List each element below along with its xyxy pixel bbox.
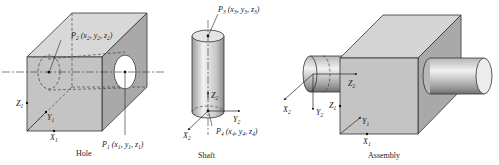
shaft-y2-label: Y2: [233, 115, 240, 125]
p1-label: P1 (x1, y1, z1): [101, 140, 144, 150]
assembly-y2-label: Y2: [316, 108, 323, 118]
p4-label: P4 (x4, y4, z4): [215, 127, 258, 137]
assembly-panel: Z2 X2 Y2 Z1 Y1 X1 Assembly: [282, 15, 492, 160]
hole-x1-label: X1: [49, 133, 58, 143]
shaft-panel: P3 (x3, y3, z3) P4 (x4, y4, z4) Z2 Y2 X2…: [182, 5, 260, 160]
assembly-x2-label: X2: [282, 105, 291, 115]
assembly-x1-label: X1: [362, 137, 371, 147]
assembly-caption: Assembly: [368, 151, 400, 160]
hole-z1-label: Z1: [16, 99, 23, 109]
p3-label: P3 (x3, y3, z3): [217, 5, 260, 15]
shaft-x2-label: X2: [182, 131, 191, 141]
hole-caption: Hole: [76, 149, 92, 158]
assembly-shaft-end-face: [476, 58, 492, 94]
assembly-block-front-face: [340, 58, 418, 134]
hole-panel: P2 (x2, y2, z2) P1 (x1, y1, z1) Z1 Y1 X1…: [2, 13, 165, 158]
hole-shaft-assembly-diagram: P2 (x2, y2, z2) P1 (x1, y1, z1) Z1 Y1 X1…: [0, 0, 499, 165]
shaft-caption: Shaft: [198, 151, 216, 160]
assembly-z1-label: Z1: [329, 101, 336, 111]
